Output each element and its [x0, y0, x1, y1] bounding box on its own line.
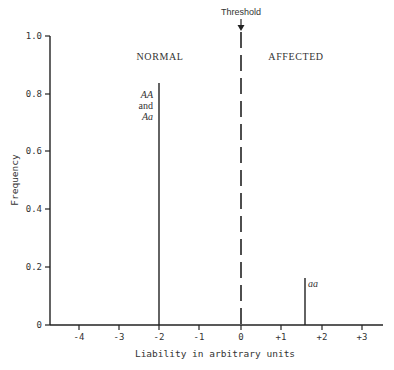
- y-axis-label: Frequency: [9, 154, 20, 206]
- x-ticks: [79, 325, 362, 330]
- y-tick-label: 0.4: [26, 204, 42, 214]
- normal-region-label: NORMAL: [137, 51, 184, 62]
- y-tick-label: 0.2: [26, 262, 42, 272]
- x-tick-label: -1: [194, 332, 205, 342]
- x-tick-label: +1: [276, 332, 287, 342]
- x-tick-label: -4: [74, 332, 85, 342]
- bar-aa-label: aa: [308, 278, 318, 289]
- y-ticks: [45, 36, 50, 325]
- x-tick-label: -3: [114, 332, 125, 342]
- x-tick-label: +3: [357, 332, 368, 342]
- y-tick-label: 0: [37, 320, 42, 330]
- y-tick-label: 1.0: [26, 31, 42, 41]
- x-axis-label: Liability in arbitrary units: [135, 348, 295, 359]
- affected-region-label: AFFECTED: [268, 51, 323, 62]
- liability-threshold-chart: 1.0 0.8 0.6 0.4 0.2 0 -4 -3 -2 -1 0 +1 +…: [0, 0, 394, 370]
- x-tick-labels: -4 -3 -2 -1 0 +1 +2 +3: [74, 332, 368, 342]
- threshold-arrow-icon: [238, 19, 245, 31]
- bar-AA-Aa-label-3: Aa: [141, 111, 153, 122]
- x-tick-label: 0: [238, 332, 243, 342]
- y-tick-label: 0.8: [26, 89, 42, 99]
- bar-AA-Aa-label-1: AA: [140, 89, 154, 100]
- y-tick-label: 0.6: [26, 146, 42, 156]
- threshold-label: Threshold: [221, 7, 261, 17]
- y-tick-labels: 1.0 0.8 0.6 0.4 0.2 0: [26, 31, 42, 330]
- x-tick-label: +2: [317, 332, 328, 342]
- bar-AA-Aa-label-2: and: [139, 100, 153, 111]
- x-tick-label: -2: [154, 332, 165, 342]
